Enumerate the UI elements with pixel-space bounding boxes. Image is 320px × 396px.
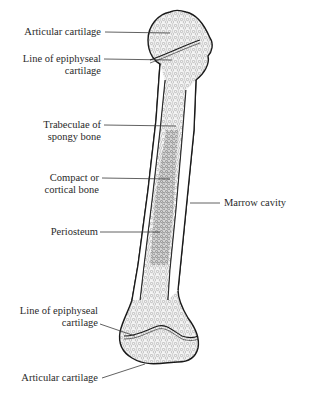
label-marrow-cavity: Marrow cavity: [224, 197, 286, 209]
label-trabeculae: Trabeculae of spongy bone: [43, 119, 101, 143]
label-periosteum: Periosteum: [51, 226, 98, 238]
label-compact-bone: Compact or cortical bone: [44, 172, 99, 196]
label-epiphyseal-bottom: Line of epiphyseal cartilage: [20, 305, 98, 329]
leader-articular-bottom: [102, 364, 145, 378]
label-epiphyseal-top: Line of epiphyseal cartilage: [23, 53, 101, 77]
label-articular-cartilage-bottom: Articular cartilage: [21, 372, 98, 384]
label-articular-cartilage-top: Articular cartilage: [24, 26, 101, 38]
